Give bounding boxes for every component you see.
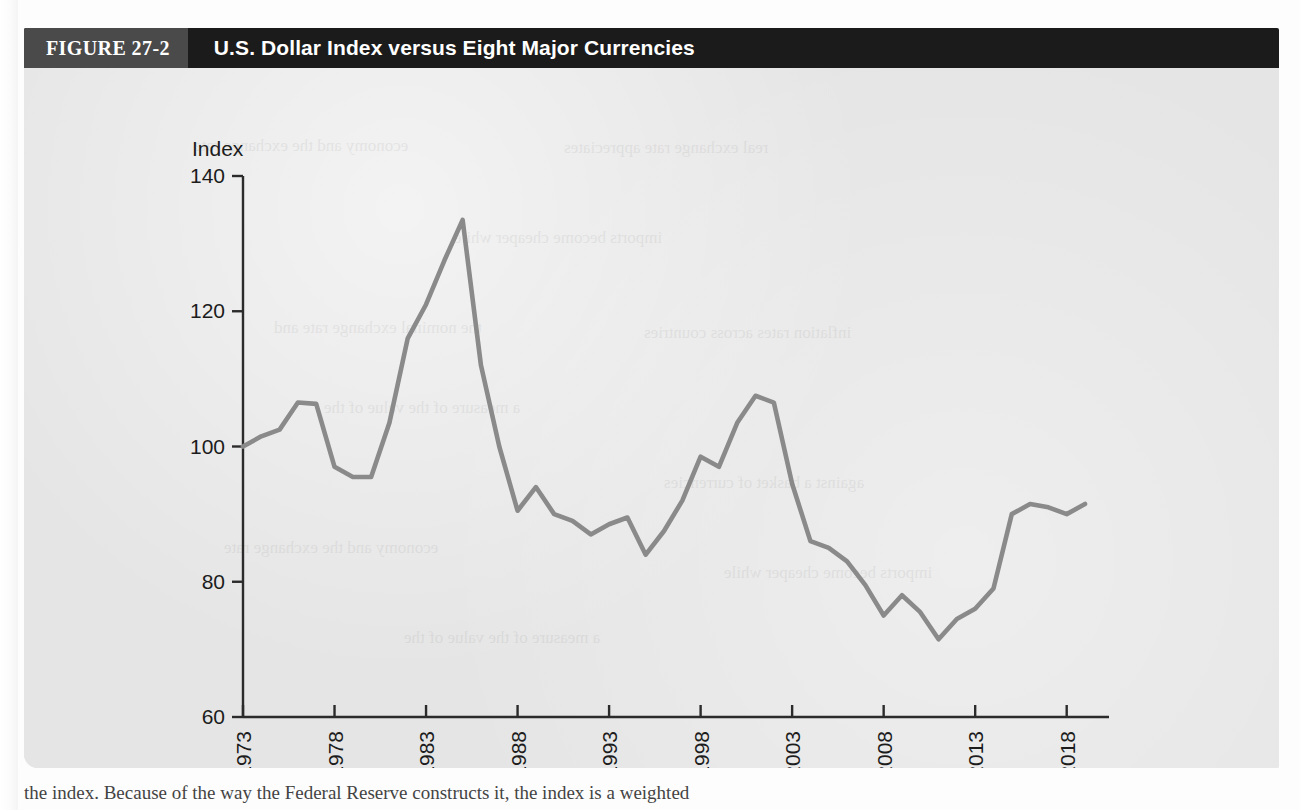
figure-header-bar: FIGURE 27-2 U.S. Dollar Index versus Eig… bbox=[24, 28, 1279, 68]
line-chart: 6080100120140 19731978198319881993199820… bbox=[24, 68, 1279, 768]
chart-axes bbox=[243, 176, 1109, 717]
x-tick-label: 1983 bbox=[415, 731, 438, 768]
y-tick-label: 120 bbox=[190, 299, 225, 322]
y-axis-tick-labels: 6080100120140 bbox=[190, 164, 225, 728]
y-tick-label: 140 bbox=[190, 164, 225, 187]
x-tick-label: 2013 bbox=[964, 731, 987, 768]
figure-caption-partial: the index. Because of the way the Federa… bbox=[24, 782, 1280, 806]
x-tick-label: 1978 bbox=[324, 731, 347, 768]
x-axis-tick-labels: 1973197819831988199319982003200820132018 bbox=[232, 731, 1079, 768]
figure-number-label: FIGURE 27-2 bbox=[24, 28, 188, 68]
y-axis-title: Index bbox=[192, 137, 244, 160]
y-tick-label: 100 bbox=[190, 435, 225, 458]
x-tick-label: 1998 bbox=[690, 731, 713, 768]
plot-surface: economy and the exchange rate real excha… bbox=[24, 68, 1279, 768]
x-tick-label: 1993 bbox=[598, 731, 621, 768]
x-tick-label: 1973 bbox=[232, 731, 255, 768]
x-tick-label: 2008 bbox=[873, 731, 896, 768]
x-tick-label: 1988 bbox=[507, 731, 530, 768]
y-tick-label: 60 bbox=[202, 705, 225, 728]
figure-container: FIGURE 27-2 U.S. Dollar Index versus Eig… bbox=[24, 28, 1279, 768]
x-axis-ticks bbox=[243, 705, 1067, 717]
page-gutter bbox=[0, 0, 18, 810]
x-tick-label: 2003 bbox=[781, 731, 804, 768]
x-tick-label: 2018 bbox=[1056, 731, 1079, 768]
figure-title: U.S. Dollar Index versus Eight Major Cur… bbox=[188, 28, 695, 68]
data-series-line bbox=[243, 220, 1085, 639]
y-tick-label: 80 bbox=[202, 570, 225, 593]
